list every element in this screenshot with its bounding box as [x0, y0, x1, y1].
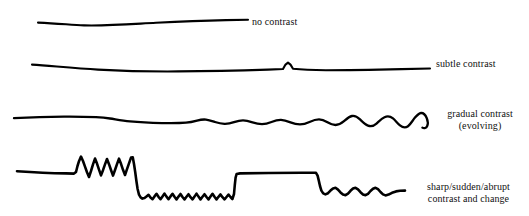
label-gradual-contrast-line2: (evolving)	[432, 120, 528, 132]
label-sharp-contrast: sharp/sudden/abrupt contrast and change	[408, 181, 529, 205]
label-gradual-contrast-line1: gradual contrast	[447, 108, 513, 119]
contrast-curves-figure: no contrast subtle contrast gradual cont…	[0, 0, 529, 216]
label-sharp-contrast-line1: sharp/sudden/abrupt	[427, 181, 510, 192]
curve-gradual-contrast	[14, 113, 428, 128]
label-no-contrast-text: no contrast	[252, 16, 297, 27]
curve-subtle-contrast	[32, 63, 430, 72]
label-subtle-contrast: subtle contrast	[436, 58, 496, 70]
curve-no-contrast	[38, 20, 248, 26]
label-subtle-contrast-text: subtle contrast	[436, 58, 496, 69]
curve-sharp-contrast	[17, 157, 405, 200]
label-no-contrast: no contrast	[252, 16, 297, 28]
label-gradual-contrast: gradual contrast (evolving)	[432, 108, 528, 132]
label-sharp-contrast-line2: contrast and change	[408, 193, 529, 205]
